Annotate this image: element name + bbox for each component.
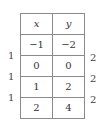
cell-x: −1: [21, 35, 53, 56]
header-x: x: [21, 14, 53, 35]
cell-x: 1: [21, 77, 53, 98]
y-step-label: 2: [90, 95, 96, 105]
x-step-label: 1: [8, 72, 14, 82]
xy-table: x y −1 −2 0 0 1 2 2 4: [20, 13, 85, 119]
x-step-label: 1: [8, 93, 14, 103]
cell-y: 4: [53, 98, 85, 119]
y-step-label: 2: [90, 74, 96, 84]
table-header-row: x y: [21, 14, 85, 35]
table-row: −1 −2: [21, 35, 85, 56]
cell-y: 0: [53, 56, 85, 77]
x-step-label: 1: [8, 51, 14, 61]
table-row: 2 4: [21, 98, 85, 119]
header-y: y: [53, 14, 85, 35]
cell-x: 2: [21, 98, 53, 119]
y-step-label: 2: [90, 53, 96, 63]
table-row: 0 0: [21, 56, 85, 77]
table-row: 1 2: [21, 77, 85, 98]
cell-x: 0: [21, 56, 53, 77]
cell-y: 2: [53, 77, 85, 98]
cell-y: −2: [53, 35, 85, 56]
